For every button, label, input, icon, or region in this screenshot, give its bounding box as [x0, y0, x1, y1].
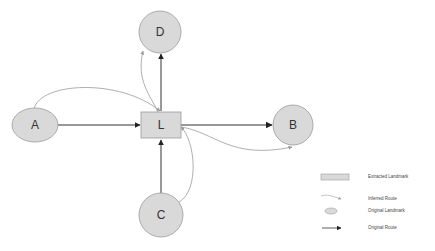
ellipse-icon — [325, 208, 337, 214]
inferred-route-a-to-l — [34, 87, 160, 111]
legend-item-extracted-landmark: Extracted Landmark — [321, 174, 409, 180]
legend-item-inferred-route: Inferred Route — [321, 195, 397, 201]
node-label: A — [31, 118, 39, 132]
legend-label: Extracted Landmark — [368, 174, 409, 179]
inferred-route-l-to-d — [141, 51, 158, 112]
thin-gray-arrow-icon — [321, 195, 341, 199]
node-c: C — [139, 193, 183, 237]
node-label: C — [157, 208, 166, 222]
node-a: A — [12, 108, 58, 142]
node-label: L — [158, 118, 165, 132]
legend-item-original-route: Original Route — [322, 225, 397, 230]
node-label: D — [156, 25, 165, 39]
legend-label: Inferred Route — [368, 196, 397, 201]
node-l: L — [141, 112, 181, 138]
landmark-route-diagram: A D B C L Extracted Landmark Inferred Ro… — [0, 0, 435, 251]
rectangle-icon — [321, 174, 349, 180]
legend-label: Original Landmark — [368, 208, 406, 213]
node-b: B — [273, 105, 313, 145]
node-label: B — [289, 118, 297, 132]
legend-item-original-landmark: Original Landmark — [325, 208, 406, 214]
legend-label: Original Route — [368, 225, 397, 230]
legend: Extracted Landmark Inferred Route Origin… — [321, 174, 409, 230]
node-d: D — [139, 11, 181, 53]
